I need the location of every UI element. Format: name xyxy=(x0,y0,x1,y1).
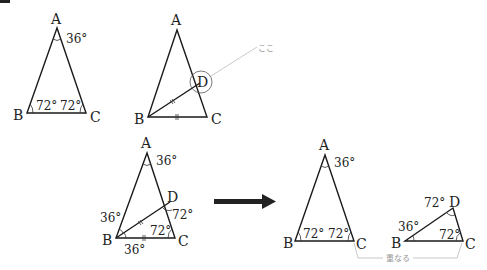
vertex-label-b: B xyxy=(102,232,112,248)
angle-label-bdc: 72° xyxy=(172,208,193,222)
angle-label-a: 36° xyxy=(334,156,355,170)
angle-arc-abd xyxy=(119,229,123,233)
vertex-label-a: A xyxy=(170,12,182,28)
angle-label-c: 72° xyxy=(60,99,81,113)
vertex-label-c: C xyxy=(211,111,222,127)
vertex-label-b: B xyxy=(391,235,401,251)
angle-label-c: 72° xyxy=(328,227,349,241)
vertex-label-c: C xyxy=(90,109,101,125)
overlap-label: 重なる xyxy=(386,253,410,263)
overlap-bracket: 重なる xyxy=(354,243,462,263)
geometry-diagram: A B C 36° 72° 72° ここ A B C D A B xyxy=(0,0,487,270)
angle-label-a: 36° xyxy=(66,32,87,46)
angle-label-a: 36° xyxy=(156,154,177,168)
figure2-triangle-with-d: ここ A B C D xyxy=(134,12,274,127)
angle-arc-a xyxy=(143,164,151,166)
vertex-label-c: C xyxy=(356,236,367,252)
vertex-label-b: B xyxy=(13,107,23,123)
figure5-triangle-bcd: B C D 36° 72° 72° xyxy=(391,194,476,252)
angle-arc-b xyxy=(30,104,33,113)
vertex-label-c: C xyxy=(178,233,189,249)
corner-mark xyxy=(0,0,10,3)
vertex-label-a: A xyxy=(50,11,62,27)
angle-label-b: 36° xyxy=(398,220,419,234)
vertex-label-d: D xyxy=(449,194,460,210)
vertex-label-b: B xyxy=(134,111,144,127)
figure3-triangle-angle-chase: A B C D 36° 36° 36° 72° 72° xyxy=(100,135,193,257)
callout-leader-line xyxy=(211,47,257,76)
angle-arc-bdc xyxy=(162,207,172,211)
angle-label-dbc: 36° xyxy=(124,243,145,257)
vertex-label-a: A xyxy=(318,137,330,153)
right-arrow-icon xyxy=(214,194,276,209)
angle-label-d: 72° xyxy=(424,196,445,210)
angle-label-c: 72° xyxy=(439,228,460,242)
vertex-label-d: D xyxy=(197,74,208,90)
angle-label-b: 72° xyxy=(36,99,57,113)
angle-arc-dbc xyxy=(124,233,126,238)
angle-arc-b xyxy=(298,232,301,241)
figure1-triangle-abc: A B C 36° 72° 72° xyxy=(13,11,101,125)
vertex-label-a: A xyxy=(140,135,152,151)
angle-arc-a xyxy=(53,39,61,41)
angle-label-c: 72° xyxy=(150,224,171,238)
angle-label-abd: 36° xyxy=(100,211,121,225)
angle-arc-a xyxy=(321,166,329,168)
vertex-label-b: B xyxy=(283,235,293,251)
figure4-triangle-abc: A B C 36° 72° 72° xyxy=(283,137,367,252)
vertex-label-c: C xyxy=(465,236,476,252)
callout-label: ここ xyxy=(258,44,274,53)
bracket-right xyxy=(413,243,462,258)
angle-arc-b xyxy=(413,236,414,241)
angle-label-b: 72° xyxy=(303,227,324,241)
vertex-label-d: D xyxy=(167,189,178,205)
